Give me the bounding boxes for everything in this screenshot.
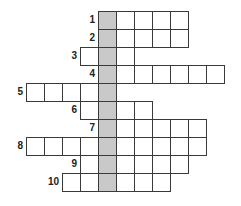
crossword-cell-shaded-row-6[interactable]	[98, 101, 117, 120]
crossword-cell-row-5-1[interactable]	[26, 83, 45, 102]
crossword-cell-row-8-7[interactable]	[134, 137, 153, 156]
crossword-cell-row-2-5[interactable]	[170, 29, 189, 48]
crossword-cell-row-9-4[interactable]	[134, 155, 153, 174]
clue-number-10: 10	[45, 173, 59, 191]
crossword-cell-row-7-5[interactable]	[170, 119, 189, 138]
crossword-cell-row-4-3[interactable]	[134, 65, 153, 84]
crossword-cell-row-4-7[interactable]	[206, 65, 225, 84]
crossword-cell-row-1-4[interactable]	[152, 11, 171, 30]
crossword-cell-row-2-4[interactable]	[152, 29, 171, 48]
crossword-cell-row-7-4[interactable]	[152, 119, 171, 138]
crossword-cell-shaded-row-4[interactable]	[98, 65, 117, 84]
crossword-cell-row-10-1[interactable]	[62, 173, 81, 192]
crossword-cell-row-8-9[interactable]	[170, 137, 189, 156]
crossword-cell-shaded-row-8[interactable]	[98, 137, 117, 156]
crossword-cell-row-7-2[interactable]	[116, 119, 135, 138]
crossword-cell-row-8-2[interactable]	[44, 137, 63, 156]
clue-number-1: 1	[81, 11, 95, 29]
clue-number-3: 3	[63, 47, 77, 65]
crossword-cell-row-10-4[interactable]	[116, 173, 135, 192]
crossword-cell-row-2-2[interactable]	[116, 29, 135, 48]
clue-number-2: 2	[81, 29, 95, 47]
crossword-cell-row-7-3[interactable]	[134, 119, 153, 138]
crossword-cell-row-9-6[interactable]	[170, 155, 189, 174]
crossword-cell-shaded-row-1[interactable]	[98, 11, 117, 30]
crossword-cell-row-10-5[interactable]	[134, 173, 153, 192]
crossword-cell-row-10-6[interactable]	[152, 173, 171, 192]
crossword-cell-row-6-4[interactable]	[134, 101, 153, 120]
crossword-cell-row-1-5[interactable]	[170, 11, 189, 30]
crossword-cell-row-3-3[interactable]	[116, 47, 135, 66]
clue-number-4: 4	[81, 65, 95, 83]
crossword-cell-row-1-3[interactable]	[134, 11, 153, 30]
clue-number-7: 7	[81, 119, 95, 137]
crossword-cell-row-3-1[interactable]	[80, 47, 99, 66]
crossword-cell-row-9-5[interactable]	[152, 155, 171, 174]
crossword-cell-row-8-1[interactable]	[26, 137, 45, 156]
crossword-cell-row-8-4[interactable]	[80, 137, 99, 156]
crossword-cell-row-1-2[interactable]	[116, 11, 135, 30]
crossword-cell-row-10-2[interactable]	[80, 173, 99, 192]
crossword-cell-row-4-4[interactable]	[152, 65, 171, 84]
crossword-cell-row-8-10[interactable]	[188, 137, 207, 156]
crossword-cell-row-9-3[interactable]	[116, 155, 135, 174]
crossword-grid: 12345678910	[0, 0, 241, 206]
crossword-cell-row-8-3[interactable]	[62, 137, 81, 156]
clue-number-6: 6	[63, 101, 77, 119]
crossword-cell-row-4-5[interactable]	[170, 65, 189, 84]
crossword-cell-row-9-1[interactable]	[80, 155, 99, 174]
crossword-cell-shaded-row-2[interactable]	[98, 29, 117, 48]
crossword-cell-shaded-row-5[interactable]	[98, 83, 117, 102]
crossword-cell-row-6-1[interactable]	[80, 101, 99, 120]
crossword-cell-row-4-6[interactable]	[188, 65, 207, 84]
crossword-cell-row-8-8[interactable]	[152, 137, 171, 156]
crossword-cell-row-2-3[interactable]	[134, 29, 153, 48]
crossword-cell-shaded-row-7[interactable]	[98, 119, 117, 138]
crossword-cell-row-5-3[interactable]	[62, 83, 81, 102]
crossword-cell-shaded-row-3[interactable]	[98, 47, 117, 66]
crossword-cell-row-5-4[interactable]	[80, 83, 99, 102]
clue-number-9: 9	[63, 155, 77, 173]
crossword-cell-row-7-6[interactable]	[188, 119, 207, 138]
crossword-cell-row-5-2[interactable]	[44, 83, 63, 102]
crossword-cell-row-6-3[interactable]	[116, 101, 135, 120]
crossword-cell-row-4-2[interactable]	[116, 65, 135, 84]
crossword-cell-shaded-row-9[interactable]	[98, 155, 117, 174]
clue-number-8: 8	[9, 137, 23, 155]
crossword-cell-shaded-row-10[interactable]	[98, 173, 117, 192]
clue-number-5: 5	[9, 83, 23, 101]
crossword-cell-row-8-6[interactable]	[116, 137, 135, 156]
